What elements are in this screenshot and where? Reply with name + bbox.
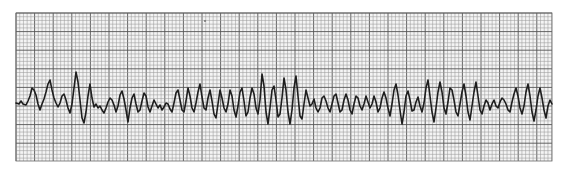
paper-speck [204,20,206,22]
ecg-rhythm-strip [0,0,570,169]
